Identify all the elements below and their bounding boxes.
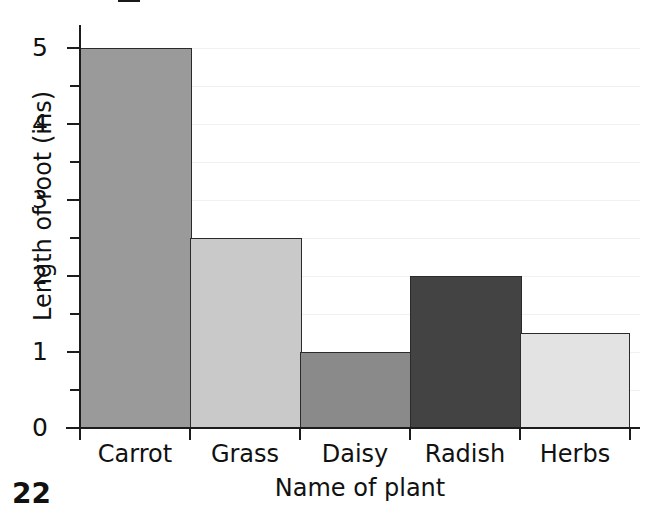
chart-page: 012345 CarrotGrassDaisyRadishHerbs Lengt… [0,0,663,515]
y-axis-tick [67,47,80,49]
x-axis-tick-label-herbs: Herbs [520,442,630,466]
x-axis-tick [519,428,521,440]
y-axis-tick [67,351,80,353]
y-axis-minor-tick [70,85,80,87]
x-axis-tick [79,428,81,440]
y-axis-tick-label: 0 [18,415,48,440]
y-axis-minor-tick [70,389,80,391]
y-axis-tick [67,275,80,277]
x-axis-tick [189,428,191,440]
bar-daisy [300,352,412,428]
x-axis-tick [299,428,301,440]
y-axis-title: Length of root (ins) [29,56,57,356]
x-axis-tick-label-radish: Radish [410,442,520,466]
bar-herbs [520,333,630,428]
page-number: 22 [12,477,51,510]
x-axis-tick [409,428,411,440]
plot-area [80,48,640,428]
x-axis-tick [629,428,631,440]
y-axis-tick [67,123,80,125]
y-axis-minor-tick [70,237,80,239]
y-axis-minor-tick [70,313,80,315]
bar-grass [190,238,302,428]
x-axis-title: Name of plant [80,474,640,502]
x-axis-tick-label-grass: Grass [190,442,300,466]
cropped-title-remnant [118,0,140,2]
x-axis-tick-label-daisy: Daisy [300,442,410,466]
bar-carrot [80,48,192,428]
y-axis-minor-tick [70,161,80,163]
y-axis-tick [67,199,80,201]
x-axis-tick-label-carrot: Carrot [80,442,190,466]
bar-radish [410,276,522,428]
x-axis-line [66,427,640,429]
